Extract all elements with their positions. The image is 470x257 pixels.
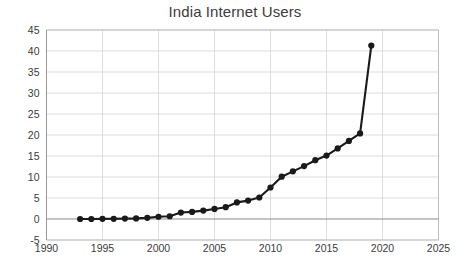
x-tick-label: 2020: [371, 242, 395, 254]
series-line: [80, 46, 371, 219]
data-point-marker: [167, 213, 173, 219]
data-point-marker: [357, 130, 363, 136]
data-point-marker: [312, 157, 318, 163]
gridlines: [47, 30, 439, 240]
data-point-marker: [99, 216, 105, 222]
x-tick-label: 1990: [35, 242, 59, 254]
data-point-marker: [200, 208, 206, 214]
data-point-marker: [122, 215, 128, 221]
x-tick-label: 2025: [427, 242, 451, 254]
x-axis-tick-labels: 19901995200020052010201520202025: [35, 242, 451, 254]
data-point-marker: [155, 214, 161, 220]
x-tick-label: 1995: [91, 242, 115, 254]
chart-plot: -5051015202530354045 1990199520002005201…: [0, 0, 470, 257]
x-tick-label: 2015: [315, 242, 339, 254]
x-tick-label: 2010: [259, 242, 283, 254]
y-tick-label: 45: [28, 24, 40, 36]
y-tick-label: 10: [28, 171, 40, 183]
data-point-marker: [144, 215, 150, 221]
data-point-marker: [335, 145, 341, 151]
data-point-marker: [111, 216, 117, 222]
data-point-marker: [189, 209, 195, 215]
data-point-marker: [279, 174, 285, 180]
data-point-marker: [368, 42, 374, 48]
data-point-marker: [223, 204, 229, 210]
data-point-marker: [178, 209, 184, 215]
y-tick-label: 25: [28, 108, 40, 120]
y-tick-label: 0: [34, 213, 40, 225]
data-series: [77, 42, 374, 222]
x-tick-label: 2000: [147, 242, 171, 254]
data-point-marker: [88, 216, 94, 222]
y-tick-label: 20: [28, 129, 40, 141]
data-point-marker: [346, 138, 352, 144]
data-point-marker: [290, 168, 296, 174]
y-axis-tick-labels: -5051015202530354045: [28, 24, 40, 246]
data-point-marker: [267, 184, 273, 190]
data-point-marker: [256, 194, 262, 200]
chart-container: India Internet Users -505101520253035404…: [0, 0, 470, 257]
y-tick-label: 35: [28, 66, 40, 78]
data-point-marker: [211, 206, 217, 212]
data-point-marker: [301, 163, 307, 169]
y-tick-label: 30: [28, 87, 40, 99]
y-tick-label: 40: [28, 45, 40, 57]
data-point-marker: [323, 152, 329, 158]
data-point-marker: [234, 199, 240, 205]
y-tick-label: 5: [34, 192, 40, 204]
data-point-marker: [77, 216, 83, 222]
x-tick-label: 2005: [203, 242, 227, 254]
data-point-marker: [245, 198, 251, 204]
y-tick-label: 15: [28, 150, 40, 162]
data-point-marker: [133, 215, 139, 221]
